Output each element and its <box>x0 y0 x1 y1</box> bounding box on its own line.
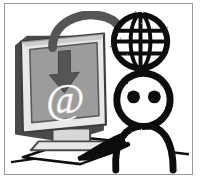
person-head <box>117 73 170 126</box>
globe-icon <box>114 15 167 68</box>
at-symbol: @ <box>46 76 84 122</box>
image-border: @ <box>4 3 193 175</box>
clipart-illustration: @ <box>5 4 192 174</box>
person-eye-right <box>148 90 161 103</box>
at-symbol-glyph: @ <box>46 76 84 122</box>
person-eye-left <box>127 90 140 103</box>
illustration-stage: @ <box>0 0 203 187</box>
